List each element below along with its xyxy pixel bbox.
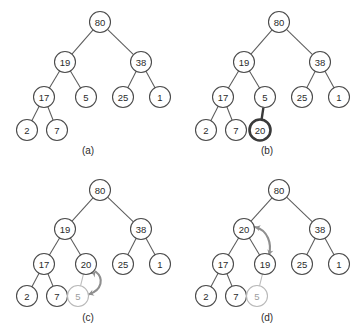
node-label: 5 [254, 291, 259, 302]
tree-node: 1 [150, 254, 171, 275]
node-label: 17 [218, 259, 229, 270]
tree-edge [48, 274, 53, 287]
tree-diagram-panel-b: 8019381752512720(b) [179, 0, 358, 166]
tree-node: 19 [255, 254, 276, 275]
node-label: 38 [136, 224, 147, 235]
panel-caption: (d) [261, 312, 273, 323]
tree-edge [108, 29, 134, 54]
tree-node: 25 [113, 254, 134, 275]
tree-node: 2 [196, 120, 217, 141]
node-label: 20 [239, 224, 250, 235]
tree-edge [146, 238, 155, 255]
tree-node: 7 [47, 120, 68, 141]
tree-node: 2 [196, 286, 217, 307]
node-label: 7 [54, 125, 59, 136]
tree-node: 38 [131, 219, 152, 240]
tree-edge [81, 274, 84, 286]
tree-node: 80 [269, 180, 290, 201]
tree-edge [146, 71, 155, 88]
node-label: 7 [233, 125, 238, 136]
tree-edge [48, 107, 53, 120]
edge-group [211, 197, 334, 286]
tree-node: 7 [226, 120, 247, 141]
tree-diagram-panel-a: 80193817525127(a) [0, 0, 179, 166]
tree-node: 2 [17, 120, 38, 141]
node-label: 17 [218, 92, 229, 103]
tree-node: 25 [292, 87, 313, 108]
tree-edge [249, 71, 259, 88]
node-label: 25 [118, 259, 129, 270]
node-label: 1 [157, 92, 162, 103]
tree-diagram-panel-c: 8019381720251275(c) [0, 166, 179, 333]
tree-edge [32, 273, 39, 286]
panel-caption: (a) [82, 145, 94, 156]
tree-node: 17 [34, 254, 55, 275]
tree-node: 25 [292, 254, 313, 275]
tree-node: 20 [250, 120, 271, 141]
tree-node: 17 [213, 254, 234, 275]
node-label: 5 [83, 92, 88, 103]
tree-edge [307, 238, 315, 254]
tree-node: 38 [310, 219, 331, 240]
tree-edge [128, 71, 136, 87]
node-label: 5 [262, 92, 267, 103]
node-label: 2 [203, 291, 208, 302]
tree-node: 38 [310, 52, 331, 73]
node-label: 17 [39, 259, 50, 270]
node-label: 80 [95, 185, 106, 196]
edge-group [211, 29, 334, 120]
tree-node: 19 [234, 52, 255, 73]
tree-edge [72, 30, 93, 54]
node-label: 2 [203, 125, 208, 136]
tree-edge [260, 274, 263, 286]
tree-edge [227, 274, 232, 287]
tree-edge [211, 106, 218, 120]
panel-caption: (b) [261, 145, 273, 156]
tree-node: 17 [213, 87, 234, 108]
tree-node: 1 [150, 87, 171, 108]
node-label: 7 [233, 291, 238, 302]
tree-edge [325, 238, 334, 255]
tree-edge [325, 71, 334, 88]
node-label: 1 [336, 92, 341, 103]
tree-edge [32, 106, 39, 120]
tree-node: 25 [113, 87, 134, 108]
tree-node: 5 [68, 286, 89, 307]
node-label: 38 [136, 57, 147, 68]
node-label: 19 [60, 224, 71, 235]
tree-node: 5 [247, 286, 268, 307]
tree-edge [49, 71, 59, 88]
edge-group [32, 29, 155, 120]
node-label: 20 [255, 125, 266, 136]
node-label: 1 [336, 259, 341, 270]
tree-edge [228, 71, 238, 88]
tree-node: 7 [47, 286, 68, 307]
tree-edge [249, 238, 259, 255]
node-label: 38 [315, 224, 326, 235]
tree-edge [262, 107, 264, 119]
node-label: 80 [274, 185, 285, 196]
tree-edge [227, 107, 232, 120]
tree-node: 19 [55, 219, 76, 240]
tree-node: 20 [76, 254, 97, 275]
node-label: 2 [24, 291, 29, 302]
node-label: 25 [118, 92, 129, 103]
node-label: 80 [274, 17, 285, 28]
tree-node: 7 [226, 286, 247, 307]
tree-node: 19 [55, 52, 76, 73]
tree-node: 2 [17, 286, 38, 307]
tree-node: 1 [329, 254, 350, 275]
tree-edge [287, 197, 313, 222]
node-label: 17 [39, 92, 50, 103]
node-label: 38 [315, 57, 326, 68]
tree-node: 38 [131, 52, 152, 73]
tree-diagram-panel-d: 8020381719251275(d) [179, 166, 358, 333]
panel-caption: (c) [82, 312, 94, 323]
node-label: 19 [260, 259, 271, 270]
tree-node: 5 [255, 87, 276, 108]
node-label: 7 [54, 291, 59, 302]
node-label: 20 [81, 259, 92, 270]
tree-edge [287, 29, 313, 54]
node-label: 80 [95, 17, 106, 28]
node-label: 5 [75, 291, 80, 302]
